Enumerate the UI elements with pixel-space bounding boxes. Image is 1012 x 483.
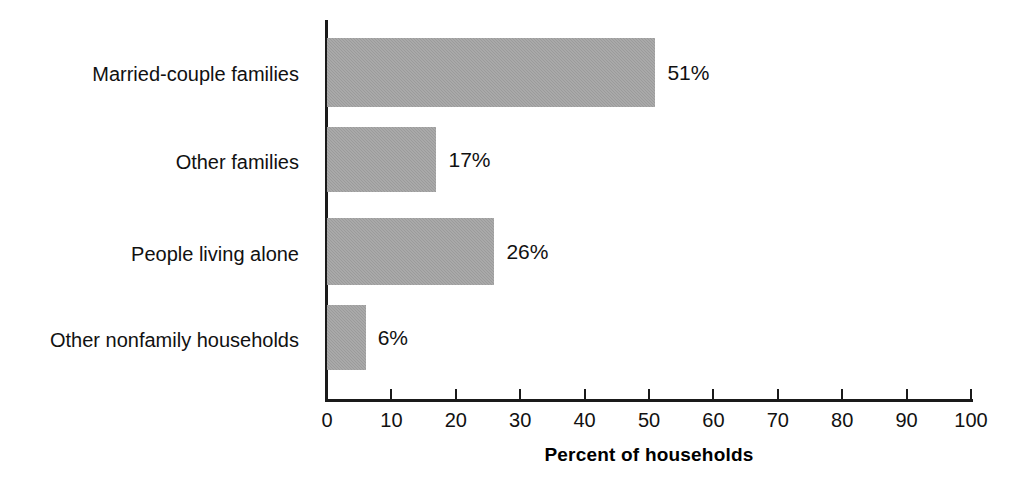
x-tick-label-4: 40 xyxy=(573,410,595,430)
plot-area xyxy=(327,20,971,400)
x-tick-mark-3 xyxy=(519,389,521,400)
x-tick-mark-0 xyxy=(326,389,328,400)
x-tick-label-8: 80 xyxy=(831,410,853,430)
category-label-1: Other families xyxy=(0,152,313,172)
x-tick-mark-10 xyxy=(970,389,972,400)
x-tick-label-1: 10 xyxy=(380,410,402,430)
bar-3 xyxy=(327,305,366,370)
x-tick-mark-1 xyxy=(390,389,392,400)
x-tick-mark-6 xyxy=(712,389,714,400)
bar-value-0: 51% xyxy=(667,62,709,83)
category-label-2: People living alone xyxy=(0,244,313,264)
x-tick-mark-7 xyxy=(777,389,779,400)
x-tick-mark-8 xyxy=(841,389,843,400)
x-tick-label-10: 100 xyxy=(954,410,987,430)
category-label-3: Other nonfamily households xyxy=(0,330,313,350)
category-label-0: Married-couple families xyxy=(0,64,313,84)
x-tick-mark-9 xyxy=(906,389,908,400)
x-tick-label-5: 50 xyxy=(638,410,660,430)
x-tick-mark-5 xyxy=(648,389,650,400)
x-tick-mark-4 xyxy=(584,389,586,400)
bar-chart: Type of household Married-couple familie… xyxy=(0,0,1012,483)
x-tick-label-9: 90 xyxy=(895,410,917,430)
x-tick-mark-2 xyxy=(455,389,457,400)
bar-value-1: 17% xyxy=(448,149,490,170)
x-axis-title: Percent of households xyxy=(325,444,973,466)
x-tick-label-0: 0 xyxy=(321,410,332,430)
x-tick-label-7: 70 xyxy=(767,410,789,430)
bar-0 xyxy=(327,38,655,107)
x-tick-label-3: 30 xyxy=(509,410,531,430)
bar-value-3: 6% xyxy=(378,327,408,348)
bar-1 xyxy=(327,127,436,192)
bar-value-2: 26% xyxy=(506,241,548,262)
x-tick-label-2: 20 xyxy=(445,410,467,430)
x-tick-label-6: 60 xyxy=(702,410,724,430)
bar-2 xyxy=(327,218,494,285)
